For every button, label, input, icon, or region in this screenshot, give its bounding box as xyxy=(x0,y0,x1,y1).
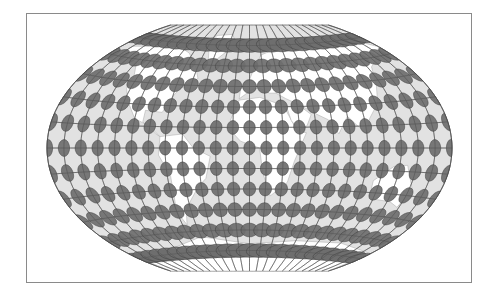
tissot-map xyxy=(0,0,496,295)
